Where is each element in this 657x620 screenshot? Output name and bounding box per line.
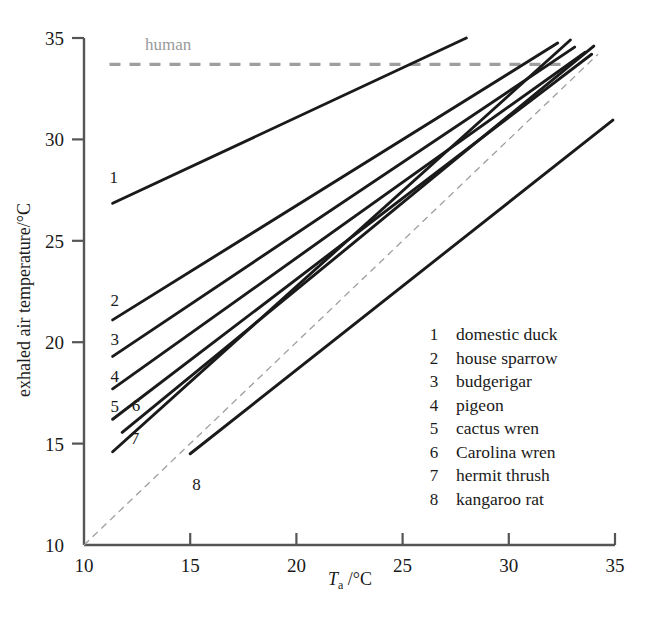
x-axis-title: Ta /°C [328, 569, 372, 592]
curve-number-7: 7 [131, 429, 140, 448]
legend-number-4: 4 [430, 396, 439, 415]
curve-number-6: 6 [132, 396, 141, 415]
y-tick-label: 35 [45, 28, 64, 49]
y-axis-tick-labels: 101520253035 [45, 28, 64, 556]
curve-number-3: 3 [111, 330, 120, 349]
figure-container: 101520253035 101520253035 exhaled air te… [0, 0, 657, 620]
legend-label-8: kangaroo rat [456, 489, 544, 509]
x-tick-label: 30 [499, 555, 518, 576]
curve-number-4: 4 [111, 367, 120, 386]
legend-number-3: 3 [430, 372, 439, 391]
curve-number-1: 1 [109, 168, 118, 187]
curve-number-8: 8 [192, 475, 201, 494]
x-axis-ticks [190, 533, 615, 545]
legend-label-4: pigeon [456, 395, 504, 415]
data-curves-group [113, 38, 613, 454]
curve-number-5: 5 [111, 397, 120, 416]
legend-label-2: house sparrow [456, 348, 558, 368]
exhaled-air-temperature-chart: 101520253035 101520253035 exhaled air te… [0, 0, 657, 620]
x-tick-label: 25 [393, 555, 412, 576]
y-tick-label: 30 [45, 129, 64, 150]
y-tick-label: 10 [45, 535, 64, 556]
y-axis-ticks [72, 38, 84, 444]
human-reference-label: human [145, 35, 192, 54]
y-tick-label: 25 [45, 231, 64, 252]
legend-label-5: cactus wren [456, 418, 539, 438]
x-tick-label: 10 [75, 555, 94, 576]
legend-number-7: 7 [430, 466, 439, 485]
legend: 1domestic duck2house sparrow3budgerigar4… [430, 324, 558, 509]
legend-number-2: 2 [430, 349, 439, 368]
legend-label-1: domestic duck [456, 324, 558, 344]
legend-number-5: 5 [430, 419, 439, 438]
x-tick-label: 35 [606, 555, 625, 576]
x-tick-label: 20 [287, 555, 306, 576]
curve-number-labels-group: 12345678 [109, 168, 200, 494]
curve-number-2: 2 [111, 291, 120, 310]
legend-label-6: Carolina wren [456, 442, 556, 462]
legend-number-1: 1 [430, 325, 439, 344]
y-tick-label: 15 [45, 434, 64, 455]
y-axis-title: exhaled air temperature/°C [14, 203, 34, 397]
svg-text:Ta /°C: Ta /°C [328, 569, 372, 592]
y-tick-label: 20 [45, 332, 64, 353]
legend-number-6: 6 [430, 443, 439, 462]
legend-number-8: 8 [430, 490, 439, 509]
legend-label-7: hermit thrush [456, 465, 550, 485]
curve-3 [113, 47, 575, 356]
x-tick-label: 15 [181, 555, 200, 576]
legend-label-3: budgerigar [456, 371, 532, 391]
curve-2 [113, 43, 558, 320]
